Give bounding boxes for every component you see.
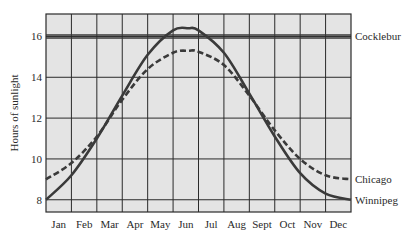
x-tick-label: Apr — [126, 218, 143, 230]
x-tick-label: Sept — [252, 218, 272, 230]
y-tick-label: 10 — [31, 153, 43, 165]
y-axis-ticks: 810121416 — [31, 30, 43, 205]
series-label-chicago: Chicago — [355, 173, 392, 185]
x-tick-label: Dec — [329, 218, 347, 230]
x-tick-label: Aug — [227, 218, 246, 230]
y-tick-label: 8 — [37, 194, 43, 206]
x-tick-label: Oct — [280, 218, 296, 230]
x-tick-label: Nov — [303, 218, 322, 230]
y-tick-label: 14 — [31, 71, 43, 83]
x-tick-label: Mar — [100, 218, 119, 230]
x-tick-label: Feb — [76, 218, 93, 230]
y-axis-title: Hours of sunlight — [8, 75, 20, 152]
sunlight-line-chart: 810121416 JanFebMarAprMayJunJulAugSeptOc… — [0, 0, 416, 241]
series-label-cocklebur: Cocklebur — [355, 30, 401, 42]
x-axis-ticks: JanFebMarAprMayJunJulAugSeptOctNovDec — [51, 218, 347, 230]
x-tick-label: Jun — [178, 218, 194, 230]
series-labels: CockleburWinnipegChicago — [355, 30, 401, 205]
x-tick-label: Jul — [205, 218, 218, 230]
y-tick-label: 12 — [31, 112, 42, 124]
x-tick-label: May — [150, 218, 171, 230]
y-tick-label: 16 — [31, 30, 43, 42]
x-tick-label: Jan — [51, 218, 66, 230]
series-label-winnipeg: Winnipeg — [355, 194, 398, 206]
